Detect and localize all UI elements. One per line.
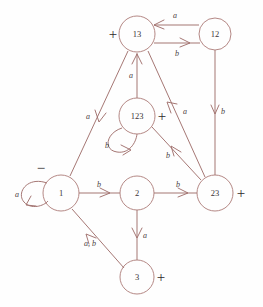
- node-1-label: 1: [59, 188, 63, 198]
- node-3[interactable]: 3 +: [120, 260, 165, 294]
- edge-12-to-23: [211, 50, 219, 175]
- edge-12-to-13: [154, 20, 199, 29]
- node-23-mark: +: [237, 185, 245, 201]
- node-12[interactable]: 12: [199, 18, 231, 50]
- edge-label-2-3-a: a: [143, 231, 147, 240]
- edge-label-1-self-a: a: [15, 190, 19, 199]
- edge-label-13-12-b: b: [175, 49, 179, 58]
- node-3-mark: +: [157, 269, 165, 285]
- edge-label-2-23-b: b: [176, 180, 180, 189]
- edge-2-to-23: [154, 188, 197, 197]
- diagram-canvas: 13 + 12 123 + 1 − 2 23 + 3: [0, 0, 263, 307]
- node-1[interactable]: 1 −: [37, 160, 79, 211]
- edge-label-23-13-a: a: [183, 107, 187, 116]
- edge-label-123-13-a: a: [129, 71, 133, 80]
- edge-label-12-13-a: a: [173, 11, 177, 20]
- node-123[interactable]: 123 +: [119, 98, 166, 134]
- node-13-label: 13: [133, 29, 142, 39]
- node-123-mark: +: [158, 108, 166, 124]
- edge-label-13-1-a: a: [86, 112, 90, 121]
- node-23-label: 23: [211, 188, 220, 198]
- edge-label-23-123-b: b: [166, 151, 170, 160]
- edge-1-to-2: [79, 188, 120, 197]
- edge-1-self-loop: [21, 181, 48, 206]
- edge-123-to-13: [132, 53, 142, 98]
- node-1-mark: −: [37, 160, 45, 176]
- edge-13-to-12: [154, 38, 200, 47]
- node-2-label: 2: [135, 188, 139, 198]
- automaton-diagram: 13 + 12 123 + 1 − 2 23 + 3: [0, 0, 263, 307]
- node-12-label: 12: [211, 29, 220, 39]
- edge-3-to-1: [72, 209, 124, 268]
- node-2[interactable]: 2: [120, 176, 154, 210]
- edge-2-to-3: [132, 210, 142, 260]
- node-3-label: 3: [135, 272, 139, 282]
- node-23[interactable]: 23 +: [197, 175, 245, 211]
- edge-23-to-13: [148, 51, 205, 177]
- edge-23-to-123: [152, 127, 201, 180]
- node-13-mark: +: [109, 26, 117, 42]
- node-13[interactable]: 13 +: [109, 16, 155, 52]
- edge-123-self-loop: [108, 128, 137, 155]
- node-123-label: 123: [131, 111, 144, 121]
- edge-label-12-23-b: b: [221, 107, 225, 116]
- edge-label-123-self-b: b: [105, 141, 109, 150]
- edge-label-3-1-ab: a, b: [84, 239, 96, 248]
- edge-label-1-2-b: b: [97, 180, 101, 189]
